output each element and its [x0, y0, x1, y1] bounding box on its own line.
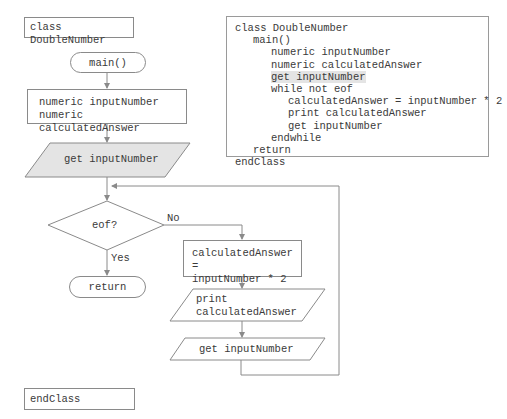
code-line: class DoubleNumber [235, 22, 488, 34]
code-line: get inputNumber [235, 120, 488, 132]
yes-branch-label: Yes [111, 252, 130, 264]
declarations-box: numeric inputNumber numeric calculatedAn… [27, 89, 187, 124]
code-line: endClass [235, 156, 488, 168]
class-end-box: endClass [24, 388, 135, 410]
declaration-line: numeric inputNumber [39, 96, 186, 109]
output-label-line: print [196, 293, 228, 306]
main-terminal: main() [70, 52, 146, 73]
loop-input-label: get inputNumber [199, 343, 294, 356]
class-end-label: endClass [30, 393, 80, 405]
code-line: return [235, 144, 488, 156]
main-terminal-label: main() [89, 57, 127, 69]
code-line: print calculatedAnswer [235, 107, 488, 119]
no-branch-label: No [167, 212, 180, 224]
code-line-highlighted: get inputNumber [235, 71, 488, 83]
calculation-line: calculatedAnswer = [192, 247, 301, 273]
decision-label: eof? [92, 219, 117, 232]
priming-input-label: get inputNumber [64, 153, 159, 166]
output-label-line: calculatedAnswer [196, 306, 297, 319]
declaration-line: numeric calculatedAnswer [39, 109, 186, 135]
return-terminal-label: return [89, 281, 127, 293]
class-start-label: class DoubleNumber [30, 21, 106, 46]
code-line: endwhile [235, 132, 488, 144]
class-start-box: class DoubleNumber [24, 17, 134, 38]
code-line: while not eof [235, 83, 488, 95]
pseudocode-panel: class DoubleNumber main() numeric inputN… [226, 16, 489, 157]
calculation-line: inputNumber * 2 [192, 273, 301, 286]
calculation-box: calculatedAnswer = inputNumber * 2 [183, 240, 302, 277]
code-line: numeric calculatedAnswer [235, 59, 488, 71]
code-line: calculatedAnswer = inputNumber * 2 [235, 95, 488, 107]
return-terminal: return [69, 276, 146, 298]
code-line: numeric inputNumber [235, 46, 488, 58]
code-line: main() [235, 34, 488, 46]
